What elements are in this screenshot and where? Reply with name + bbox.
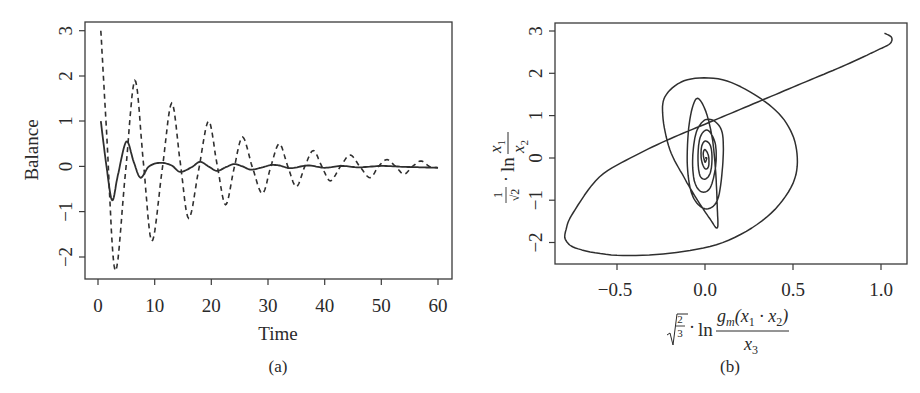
plot-b-x-ticks <box>617 264 881 270</box>
sqrt-numerator: 2 <box>677 313 683 325</box>
numerator: x1 <box>486 140 507 154</box>
x-tick-label: 50 <box>372 295 391 316</box>
dot: · <box>496 176 516 182</box>
x-tick-label: 40 <box>315 295 334 316</box>
dot: · <box>689 317 695 337</box>
y-tick-label: 3 <box>525 26 546 36</box>
y-tick-label: 2 <box>525 69 546 79</box>
denominator: x3 <box>743 334 758 357</box>
series-solid-line <box>101 121 438 200</box>
plot-b-y-axis-label: 1 √2 · ln x1 x2 <box>486 132 530 203</box>
x-tick-label: −0.5 <box>598 279 632 300</box>
ln: ln <box>497 157 518 172</box>
y-tick-label: 0 <box>55 162 76 172</box>
frac-numerator: 1 <box>491 192 505 198</box>
panel-a: 3 2 1 0 −1 −2 0 10 20 30 40 50 60 Time <box>21 22 452 376</box>
y-tick-label: 1 <box>525 111 546 121</box>
y-tick-label: 1 <box>55 116 76 126</box>
plot-b-caption: (b) <box>720 357 740 376</box>
panel-b: 3 2 1 0 −1 −2 −0.5 0.0 0.5 1.0 2 3 · ln <box>486 23 907 376</box>
plot-b-y-ticks <box>549 31 555 243</box>
y-tick-label: 3 <box>55 26 76 36</box>
y-tick-label: 0 <box>525 153 546 163</box>
plot-a-y-axis-label: Balance <box>21 119 42 180</box>
plot-b-y-tick-labels: 3 2 1 0 −1 −2 <box>525 26 546 252</box>
y-tick-label: −2 <box>55 247 76 267</box>
plot-a-y-tick-labels: 3 2 1 0 −1 −2 <box>55 26 76 267</box>
plot-a-y-ticks <box>79 31 85 257</box>
numerator: gm(x1 · x2) <box>717 306 788 329</box>
plot-b-x-axis-label: 2 3 · ln gm(x1 · x2) x3 <box>667 306 789 357</box>
series-trajectory-line <box>565 33 892 255</box>
plot-a-caption: (a) <box>269 357 288 376</box>
x-tick-label: 0.0 <box>693 279 717 300</box>
figure-canvas: 3 2 1 0 −1 −2 0 10 20 30 40 50 60 Time <box>0 0 920 393</box>
x-tick-label: 0 <box>93 295 103 316</box>
denominator: x2 <box>509 140 530 154</box>
x-tick-label: 10 <box>145 295 164 316</box>
plot-b-frame <box>555 23 907 264</box>
sqrt-denominator: 3 <box>677 327 683 339</box>
plot-b-x-tick-labels: −0.5 0.0 0.5 1.0 <box>598 279 893 300</box>
x-tick-label: 0.5 <box>781 279 805 300</box>
plot-a-x-ticks <box>98 279 438 285</box>
x-tick-label: 60 <box>429 295 448 316</box>
x-tick-label: 1.0 <box>869 279 893 300</box>
y-tick-label: −2 <box>525 232 546 252</box>
series-dashed-line <box>101 31 438 271</box>
plot-a-x-axis-label: Time <box>258 323 297 344</box>
ln: ln <box>698 319 713 340</box>
frac-denominator: √2 <box>508 189 522 202</box>
y-tick-label: 2 <box>55 71 76 81</box>
x-tick-label: 20 <box>202 295 221 316</box>
y-tick-label: −1 <box>55 201 76 221</box>
plot-a-frame <box>85 22 452 279</box>
plot-a-x-tick-labels: 0 10 20 30 40 50 60 <box>93 295 447 316</box>
x-tick-label: 30 <box>259 295 278 316</box>
y-tick-label: −1 <box>525 190 546 210</box>
